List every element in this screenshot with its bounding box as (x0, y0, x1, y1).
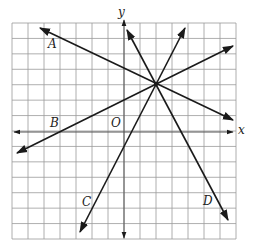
line-a-label: A (48, 38, 57, 50)
x-axis-label: x (238, 124, 245, 136)
line-b (17, 46, 233, 153)
line-d-label: D (203, 195, 213, 207)
line-b-label: B (50, 117, 59, 129)
y-axis-label: y (118, 6, 125, 18)
intersection-point (154, 82, 158, 86)
coordinate-plane-figure: y x O A B C D (0, 0, 253, 252)
line-c-label: C (82, 196, 91, 208)
line-c (80, 28, 185, 232)
origin-label: O (111, 117, 121, 129)
graph-svg (0, 0, 253, 252)
line-d (127, 30, 228, 220)
